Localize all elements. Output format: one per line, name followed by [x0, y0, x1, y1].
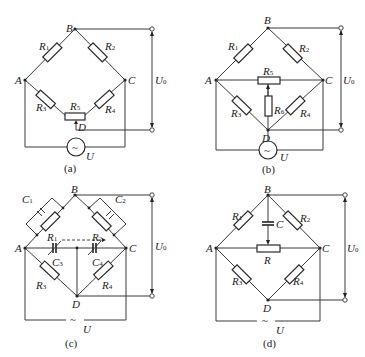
svg-text:R2: R2 [104, 40, 116, 52]
resistor-r1 [41, 212, 60, 231]
svg-text:U: U [86, 150, 95, 162]
svg-text:R4: R4 [292, 275, 304, 287]
resistor-r2 [92, 212, 111, 231]
svg-text:R4: R4 [299, 107, 311, 119]
svg-text:U: U [83, 323, 92, 335]
resistor-r [257, 245, 280, 252]
svg-text:R: R [263, 254, 271, 266]
svg-text:D: D [262, 302, 271, 314]
svg-text:C: C [128, 74, 136, 86]
svg-text:R2: R2 [298, 42, 310, 54]
svg-text:R3: R3 [35, 279, 47, 291]
svg-text:U: U [276, 324, 285, 336]
output-terminal-top [339, 26, 343, 30]
svg-text:R2: R2 [91, 231, 103, 243]
resistor-r6 [265, 96, 272, 116]
svg-text:B: B [264, 183, 271, 195]
output-terminal-bottom [150, 294, 154, 298]
svg-text:R1: R1 [46, 231, 58, 243]
svg-text:B: B [264, 14, 271, 26]
svg-text:R1: R1 [38, 40, 50, 52]
panel-d: ~ B A C D R1 R2 C R R3 R4 U0 U (d) [205, 183, 359, 350]
output-terminal-top [150, 193, 154, 197]
panel-a: ~ B A C D R1 R2 R3 R4 R5 U0 U (a) [14, 22, 167, 175]
svg-text:D: D [71, 298, 80, 310]
output-terminal-bottom [343, 298, 347, 302]
caption-d: (d) [263, 337, 276, 350]
svg-text:~: ~ [72, 141, 78, 153]
bridge-circuit-figure: ~ B A C D R1 R2 R3 R4 R5 U0 U (a) [0, 0, 365, 357]
svg-text:C: C [325, 74, 333, 86]
svg-text:C1: C1 [22, 193, 33, 205]
panel-c: ~ B A C D C1 C2 R1 R2 C3 C4 R3 R4 U0 U (… [14, 183, 167, 350]
resistor-r5-potentiometer [65, 113, 85, 120]
svg-text:A: A [14, 74, 22, 86]
svg-text:R1: R1 [227, 40, 239, 52]
svg-text:~: ~ [264, 144, 270, 156]
svg-text:A: A [204, 74, 212, 86]
resistor-r5 [258, 77, 280, 84]
svg-text:R5: R5 [69, 100, 81, 112]
svg-text:U0: U0 [347, 242, 359, 254]
svg-text:C: C [129, 242, 137, 254]
output-terminal-top [150, 27, 154, 31]
svg-text:A: A [205, 242, 213, 254]
svg-text:D: D [77, 121, 86, 133]
svg-text:U0: U0 [155, 74, 167, 86]
svg-text:A: A [14, 242, 22, 254]
svg-text:B: B [66, 22, 73, 34]
svg-text:B: B [71, 183, 78, 195]
panel-b: ~ B A C D R1 R2 R5 R6 R3 R4 U0 U (b) [204, 14, 355, 176]
output-terminal-bottom [150, 128, 154, 132]
caption-a: (a) [64, 162, 77, 175]
svg-text:U: U [280, 151, 289, 163]
output-terminal-top [343, 193, 347, 197]
caption-b: (b) [262, 163, 275, 176]
svg-text:~: ~ [70, 313, 76, 325]
output-terminal-bottom [339, 128, 343, 132]
svg-text:U0: U0 [343, 74, 355, 86]
svg-text:R5: R5 [262, 65, 274, 77]
svg-text:R2: R2 [299, 212, 311, 224]
svg-text:C4: C4 [92, 256, 103, 268]
svg-text:D: D [261, 132, 270, 144]
svg-text:C3: C3 [52, 256, 63, 268]
svg-text:C: C [276, 218, 284, 230]
svg-text:C: C [322, 242, 330, 254]
svg-text:~: ~ [262, 314, 268, 326]
svg-text:R4: R4 [104, 103, 116, 115]
svg-text:R4: R4 [101, 279, 113, 291]
svg-text:U0: U0 [155, 240, 167, 252]
caption-c: (c) [65, 337, 78, 350]
svg-text:R6: R6 [273, 104, 285, 116]
svg-text:R1: R1 [231, 210, 243, 222]
